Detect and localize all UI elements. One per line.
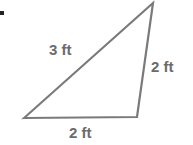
right-side-label: 2 ft (151, 58, 174, 75)
triangle-diagram: 3 ft 2 ft 2 ft (0, 0, 193, 145)
bullet-dot (0, 11, 4, 15)
bottom-side-label: 2 ft (69, 124, 92, 141)
triangle-shape (24, 3, 153, 118)
hypotenuse-label: 3 ft (49, 41, 72, 58)
